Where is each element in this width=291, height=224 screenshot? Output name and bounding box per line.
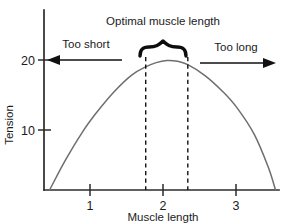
- y-tick-label-10: 10: [21, 124, 35, 138]
- too-long-arrow-head-icon: [263, 58, 276, 68]
- too-long-label: Too long: [214, 41, 257, 53]
- optimal-range-brace: [140, 41, 186, 56]
- length-tension-curve: [50, 60, 276, 190]
- x-tick-label-3: 3: [233, 199, 240, 213]
- x-tick-label-1: 1: [87, 199, 94, 213]
- length-tension-chart: 20 10 1 2 3 Muscle length Tension Optima…: [0, 0, 291, 224]
- y-tick-label-20: 20: [21, 54, 35, 68]
- optimal-muscle-length-label: Optimal muscle length: [106, 15, 220, 27]
- too-short-label: Too short: [62, 38, 110, 50]
- y-axis-title: Tension: [3, 105, 15, 145]
- x-axis-title: Muscle length: [128, 211, 199, 223]
- too-short-arrow-head-icon: [47, 55, 60, 65]
- chart-canvas: 20 10 1 2 3 Muscle length Tension Optima…: [0, 0, 291, 224]
